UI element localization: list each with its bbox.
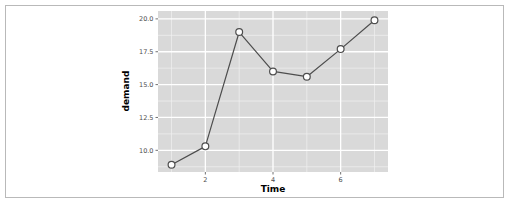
chart-svg: 10.012.515.017.520.0 246 Time demand <box>0 0 510 204</box>
data-point <box>202 143 209 150</box>
data-point <box>337 46 344 53</box>
x-axis: 246 <box>203 172 342 184</box>
data-point <box>168 161 175 168</box>
data-point <box>371 17 378 24</box>
data-point <box>303 73 310 80</box>
x-tick-label: 6 <box>339 176 343 184</box>
y-axis-title: demand <box>121 71 131 112</box>
y-tick-label: 15.0 <box>139 81 153 89</box>
y-tick-label: 12.5 <box>139 114 153 122</box>
x-tick-label: 2 <box>203 176 207 184</box>
line-chart: 10.012.515.017.520.0 246 Time demand <box>0 0 510 204</box>
data-point <box>270 68 277 75</box>
x-tick-label: 4 <box>271 176 275 184</box>
y-axis: 10.012.515.017.520.0 <box>139 15 158 154</box>
y-tick-label: 20.0 <box>139 15 153 23</box>
y-tick-label: 10.0 <box>139 147 153 155</box>
x-axis-title: Time <box>261 184 286 194</box>
data-point <box>236 29 243 36</box>
y-tick-label: 17.5 <box>139 48 153 56</box>
screenshot-root: 10.012.515.017.520.0 246 Time demand <box>0 0 510 204</box>
